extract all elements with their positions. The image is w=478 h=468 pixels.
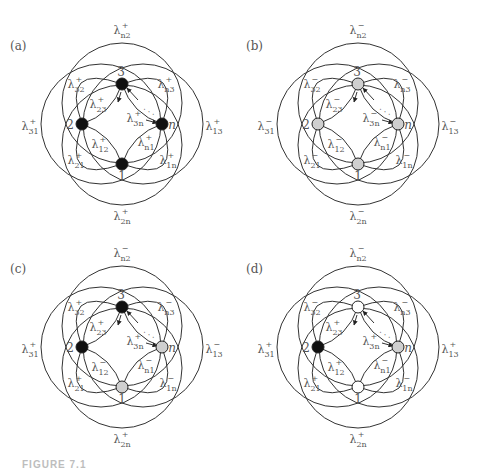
ellipsis: · · ·	[377, 105, 393, 119]
ellipsis: · · ·	[141, 105, 157, 119]
rate-label-3n: λ3n−	[362, 109, 379, 128]
outer-circle-top	[298, 43, 418, 163]
panel-label: (b)	[246, 39, 263, 53]
rate-label-1n: λ1n−	[395, 151, 412, 170]
rate-label-21: λ21+	[67, 374, 84, 393]
node-label-1: 1	[118, 392, 126, 406]
rate-label-n1: λn1+	[137, 133, 154, 152]
node-n	[156, 341, 168, 353]
rate-label-n1: λn1−	[373, 356, 390, 375]
rate-label-2n: λ2n+	[113, 430, 130, 449]
rate-label-13: λ13+	[205, 117, 222, 136]
outer-circle-bottom	[298, 85, 418, 205]
node-3	[352, 301, 364, 313]
panel-c: (c)· · ·λ12−λ13−λ21+λ23+λ31+λ32+λn2−λ2n+…	[10, 244, 223, 449]
rate-label-n3: λn3−	[393, 298, 410, 317]
node-label-n: n	[404, 341, 412, 355]
rate-label-32: λ32+	[67, 75, 84, 94]
rate-label-21: λ21−	[303, 151, 320, 170]
rate-label-12: λ12+	[91, 135, 108, 154]
edge-2-3-inner	[318, 307, 358, 347]
rate-label-23: λ23+	[89, 318, 106, 337]
node-label-2: 2	[66, 118, 74, 132]
rate-label-31: λ31+	[21, 117, 38, 136]
node-2	[76, 118, 88, 130]
node-label-n: n	[168, 118, 176, 132]
node-label-2: 2	[302, 341, 310, 355]
node-label-n: n	[168, 341, 176, 355]
rate-label-n3: λn3−	[157, 298, 174, 317]
rate-label-13: λ13−	[205, 340, 222, 359]
panel-label: (d)	[246, 262, 263, 276]
node-label-2: 2	[66, 341, 74, 355]
rate-label-n2: λn2−	[349, 244, 366, 263]
node-2	[312, 118, 324, 130]
rate-label-13: λ13−	[441, 117, 458, 136]
node-label-1: 1	[354, 392, 362, 406]
rate-label-n3: λn3+	[157, 75, 174, 94]
node-label-1: 1	[118, 169, 126, 183]
outer-circle-bottom	[62, 308, 182, 428]
panel-b: (b)· · ·λ12−λ13−λ21−λ23−λ31−λ32−λn2−λ2n−…	[246, 21, 459, 226]
outer-circle-bottom	[62, 85, 182, 205]
rate-label-31: λ31+	[21, 340, 38, 359]
rate-label-12: λ12−	[91, 358, 108, 377]
edge-2-3-inner	[82, 307, 122, 347]
rate-label-23: λ23−	[325, 95, 342, 114]
rate-label-n2: λn2−	[349, 21, 366, 40]
node-2	[312, 341, 324, 353]
rate-label-32: λ32+	[67, 298, 84, 317]
outer-circle-top	[62, 266, 182, 386]
rate-label-32: λ32−	[303, 298, 320, 317]
edge-2-1-inner	[82, 347, 122, 387]
node-label-3: 3	[353, 65, 361, 79]
node-n	[392, 118, 404, 130]
node-label-2: 2	[302, 118, 310, 132]
edge-2-1-inner	[82, 124, 122, 164]
rate-label-31: λ31−	[257, 117, 274, 136]
rate-label-n2: λn2+	[113, 21, 130, 40]
ellipsis: · · ·	[141, 328, 157, 342]
rate-label-23: λ23+	[325, 318, 342, 337]
node-label-3: 3	[117, 288, 125, 302]
rate-label-n2: λn2−	[113, 244, 130, 263]
rate-label-3n: λ3n+	[126, 332, 143, 351]
panel-a: (a)· · ·λ12+λ13+λ21+λ23+λ31+λ32+λn2+λ2n+…	[10, 21, 223, 226]
rate-label-2n: λ2n+	[349, 430, 366, 449]
figure-caption-fragment: FIGURE 7.1	[22, 459, 86, 468]
rate-label-23: λ23+	[89, 95, 106, 114]
panel-d: (d)· · ·λ12+λ13+λ21+λ23+λ31+λ32−λn2−λ2n+…	[246, 244, 459, 449]
outer-circle-top	[62, 43, 182, 163]
rate-label-n3: λn3−	[393, 75, 410, 94]
ellipsis: · · ·	[377, 328, 393, 342]
outer-circle-top	[298, 266, 418, 386]
node-label-1: 1	[354, 169, 362, 183]
rate-label-12: λ12−	[327, 135, 344, 154]
panel-label: (a)	[10, 39, 27, 53]
edge-2-3-inner	[82, 84, 122, 124]
node-n	[392, 341, 404, 353]
rate-label-n1: λn1−	[137, 356, 154, 375]
rate-label-31: λ31+	[257, 340, 274, 359]
rate-label-13: λ13+	[441, 340, 458, 359]
rate-label-3n: λ3n+	[126, 109, 143, 128]
edge-2-1-inner	[318, 124, 358, 164]
node-3	[116, 301, 128, 313]
node-label-3: 3	[117, 65, 125, 79]
rate-label-21: λ21+	[67, 151, 84, 170]
edge-2-3-inner	[318, 84, 358, 124]
rate-label-3n: λ3n+	[362, 332, 379, 351]
node-n	[156, 118, 168, 130]
panel-label: (c)	[10, 262, 26, 276]
node-2	[76, 341, 88, 353]
rate-label-1n: λ1n−	[395, 374, 412, 393]
node-3	[116, 78, 128, 90]
rate-label-1n: λ1n+	[159, 151, 176, 170]
outer-circle-bottom	[298, 308, 418, 428]
rate-label-2n: λ2n+	[113, 207, 130, 226]
rate-label-32: λ32−	[303, 75, 320, 94]
transition-diagram-figure: (a)· · ·λ12+λ13+λ21+λ23+λ31+λ32+λn2+λ2n+…	[0, 0, 478, 468]
rate-label-2n: λ2n−	[349, 207, 366, 226]
rate-label-12: λ12+	[327, 358, 344, 377]
node-label-n: n	[404, 118, 412, 132]
